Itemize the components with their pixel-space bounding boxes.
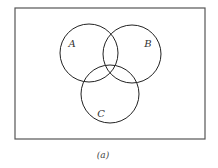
venn-diagram: A B C (a) <box>0 0 218 168</box>
set-b-label: B <box>143 38 151 49</box>
set-a-label: A <box>67 38 75 49</box>
set-c-label: C <box>97 108 105 119</box>
set-b-circle <box>103 25 161 83</box>
figure-caption: (a) <box>97 150 110 160</box>
